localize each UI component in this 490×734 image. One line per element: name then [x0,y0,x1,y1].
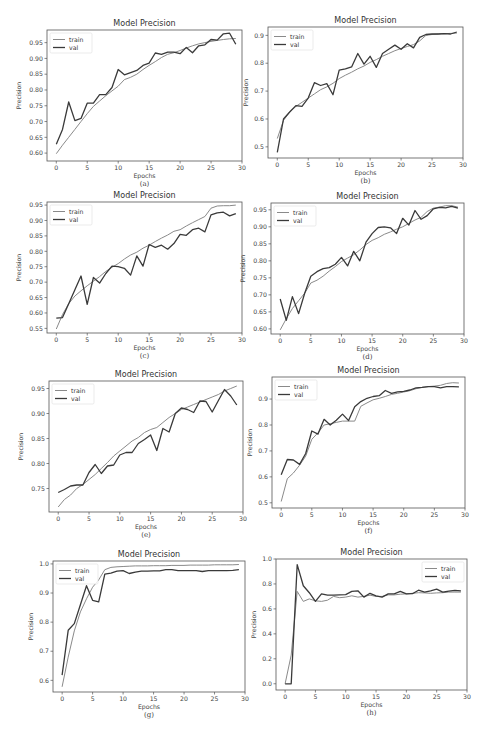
series-line-val [285,565,461,684]
y-tick-label: 0.70 [29,278,43,285]
x-tick-label: 10 [114,336,122,343]
y-tick-label: 0.80 [29,248,43,255]
x-tick-label: 0 [56,515,60,522]
x-tick-label: 10 [114,164,122,171]
legend: trainval [271,30,313,50]
y-tick-label: 0.8 [262,580,272,587]
y-axis-label: Precision [246,429,253,457]
x-tick-label: 5 [306,161,310,168]
legend-label-val: val [69,216,78,223]
panel-caption: (g) [129,711,169,719]
y-axis-label: Precision [17,433,24,461]
x-tick-label: 30 [459,161,467,168]
chart-panel-b: Model Precision0510152025300.50.60.70.80… [228,13,469,184]
y-tick-label: 0.8 [254,59,264,66]
x-axis-label: Epochs [133,172,155,180]
x-tick-label: 25 [429,337,437,344]
chart-title: Model Precision [113,191,175,200]
chart-title: Model Precision [115,370,177,379]
legend-label-train: train [75,567,89,574]
y-tick-label: 0.65 [253,308,267,315]
legend-label-train: train [69,36,83,43]
legend: trainval [50,205,92,225]
x-tick-label: 10 [338,337,346,344]
x-tick-label: 15 [150,695,158,702]
y-tick-label: 0.55 [29,325,43,332]
legend-label-val: val [69,44,78,51]
x-tick-label: 20 [177,515,185,522]
legend: trainval [275,380,317,400]
x-tick-label: 10 [116,515,124,522]
x-tick-label: 20 [176,336,184,343]
legend: trainval [56,564,98,584]
panel-caption: (f) [349,527,389,535]
legend-label-val: val [293,217,302,224]
x-tick-label: 25 [207,336,215,343]
y-tick-label: 0.85 [29,70,43,77]
x-axis-label: Epochs [360,701,382,709]
chart-svg-b: Model Precision0510152025300.50.60.70.80… [228,13,469,184]
series-line-val [56,212,236,318]
chart-svg-e: Model Precision0510152025300.750.800.850… [9,367,249,538]
panel-caption: (c) [125,352,165,360]
x-tick-label: 25 [430,511,438,518]
y-tick-label: 0.9 [39,589,49,596]
panel-caption: (d) [348,353,388,361]
x-tick-label: 15 [145,164,153,171]
x-tick-label: 25 [208,515,216,522]
y-tick-label: 0.80 [31,460,45,467]
legend-label-train: train [71,387,85,394]
legend-label-val: val [71,395,80,402]
x-tick-label: 30 [460,337,468,344]
x-tick-label: 20 [397,161,405,168]
x-tick-label: 5 [91,695,95,702]
y-axis-label: Precision [15,82,22,110]
y-tick-label: 0.75 [29,102,43,109]
y-tick-label: 0.6 [262,605,272,612]
y-tick-label: 0.9 [254,32,264,39]
x-axis-label: Epochs [135,523,157,531]
chart-svg-g: Model Precision0510152025300.60.70.80.91… [13,547,251,718]
chart-panel-c: Model Precision0510152025300.550.600.650… [7,188,248,359]
series-line-val [58,390,237,493]
y-tick-label: 0.4 [262,630,272,637]
y-tick-label: 0.6 [254,115,264,122]
y-tick-label: 0.85 [31,435,45,442]
y-tick-label: 0.60 [29,149,43,156]
chart-title: Model Precision [340,548,402,557]
y-tick-label: 0.75 [29,263,43,270]
panel-caption: (h) [352,709,392,717]
x-tick-label: 5 [85,336,89,343]
y-axis-label: Precision [15,254,22,282]
y-axis-label: Precision [27,613,34,641]
series-line-val [62,570,239,675]
y-tick-label: 0.60 [29,309,43,316]
x-tick-label: 30 [463,693,471,700]
chart-panel-a: Model Precision0510152025300.600.650.700… [7,16,248,187]
x-tick-label: 5 [309,337,313,344]
legend: trainval [274,206,316,226]
x-axis-label: Epochs [356,345,378,353]
chart-title: Model Precision [118,550,180,559]
y-tick-label: 0.70 [29,118,43,125]
chart-svg-c: Model Precision0510152025300.550.600.650… [7,188,248,359]
y-tick-label: 0.8 [39,618,49,625]
y-tick-label: 0.90 [29,55,43,62]
x-tick-label: 0 [54,164,58,171]
x-tick-label: 30 [461,511,469,518]
x-tick-label: 15 [368,337,376,344]
y-tick-label: 0.75 [31,485,45,492]
x-tick-label: 0 [278,337,282,344]
x-tick-label: 15 [372,693,380,700]
chart-title: Model Precision [334,16,396,25]
y-tick-label: 0.80 [253,257,267,264]
x-axis-label: Epochs [133,344,155,352]
y-tick-label: 0.7 [39,647,49,654]
x-tick-label: 20 [402,693,410,700]
series-line-train [281,383,459,502]
y-tick-label: 0.85 [253,240,267,247]
y-tick-label: 0.95 [253,206,267,213]
x-tick-label: 0 [283,693,287,700]
chart-panel-d: Model Precision0510152025300.600.650.700… [231,189,470,360]
y-tick-label: 0.85 [29,232,43,239]
